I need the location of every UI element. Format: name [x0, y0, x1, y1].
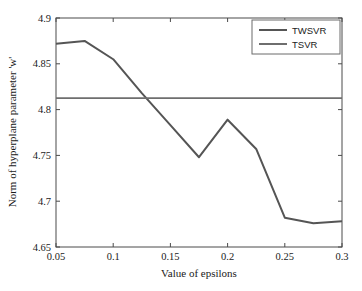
x-axis-tick-labels: 0.050.10.150.20.250.3: [47, 251, 349, 262]
chart-figure: 0.050.10.150.20.250.3 4.654.74.754.84.85…: [0, 0, 362, 291]
y-tick-label: 4.8: [38, 104, 51, 115]
x-tick-label: 0.2: [221, 251, 234, 262]
x-tick-label: 0.15: [161, 251, 179, 262]
y-tick-label: 4.65: [33, 242, 51, 253]
legend-label-twsvr: TWSVR: [292, 25, 326, 36]
y-axis-title: Norm of hyperplane parameter 'w': [6, 57, 18, 208]
y-tick-label: 4.75: [33, 150, 51, 161]
line-chart: 0.050.10.150.20.250.3 4.654.74.754.84.85…: [0, 0, 362, 291]
x-tick-label: 0.05: [47, 251, 65, 262]
legend-label-tsvr: TSVR: [292, 39, 317, 50]
y-tick-label: 4.85: [33, 58, 51, 69]
x-tick-label: 0.25: [276, 251, 294, 262]
x-tick-label: 0.1: [107, 251, 120, 262]
series-line-twsvr: [56, 41, 342, 223]
y-tick-label: 4.9: [38, 13, 51, 24]
y-axis-tick-labels: 4.654.74.754.84.854.9: [33, 13, 51, 253]
x-tick-label: 0.3: [335, 251, 348, 262]
x-axis-title: Value of epsilons: [161, 267, 237, 279]
chart-legend: TWSVRTSVR: [252, 20, 340, 54]
y-tick-label: 4.7: [38, 196, 51, 207]
data-series-layer: [56, 41, 342, 223]
